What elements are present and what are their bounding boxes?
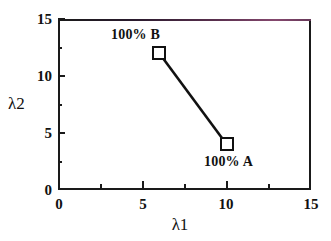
chart-figure: 15 10 5 0 0 5 10 15 λ2 λ1 100% B 100% A (0, 0, 331, 241)
frame-top-edge (58, 19, 311, 21)
y-tick-12p5 (58, 47, 62, 49)
x-ticklabel-15: 15 (291, 197, 331, 212)
x-tick-0 (58, 181, 60, 188)
annotation-100-percent-b: 100% B (111, 28, 160, 42)
y-tick-2p5 (58, 161, 62, 163)
x-ticklabel-5: 5 (123, 197, 163, 212)
y-ticklabel-5: 5 (12, 126, 52, 141)
y-axis-title: λ2 (8, 95, 25, 112)
x-tick-5 (142, 181, 144, 188)
x-tick-2p5 (100, 184, 102, 188)
y-tick-0 (58, 188, 65, 190)
y-ticklabel-15: 15 (12, 12, 52, 27)
data-point-b (152, 46, 166, 60)
y-tick-7p5 (58, 104, 62, 106)
data-point-a (220, 137, 234, 151)
y-ticklabel-10: 10 (12, 69, 52, 84)
x-ticklabel-0: 0 (39, 197, 79, 212)
plot-frame (58, 19, 311, 190)
y-tick-15 (58, 18, 65, 20)
annotation-100-percent-a: 100% A (204, 155, 253, 169)
x-tick-12p5 (268, 184, 270, 188)
x-axis-title: λ1 (0, 216, 331, 233)
y-tick-10 (58, 75, 65, 77)
x-tick-7p5 (184, 184, 186, 188)
x-tick-10 (226, 181, 228, 188)
y-ticklabel-0: 0 (12, 183, 52, 198)
y-tick-5 (58, 132, 65, 134)
x-tick-15 (309, 181, 311, 188)
x-ticklabel-10: 10 (206, 197, 246, 212)
